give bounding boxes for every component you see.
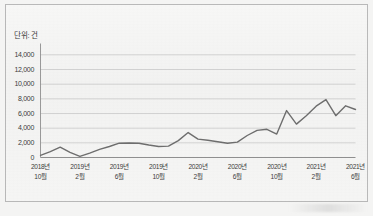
x-tick-month: 10월: [139, 172, 179, 182]
x-tick-month: 10월: [257, 172, 297, 182]
y-tick-label: 10,000: [4, 80, 34, 87]
y-tick-label: 2,000: [4, 139, 34, 146]
y-tick-label: 14,000: [4, 51, 34, 58]
x-tick-year: 2020년: [178, 162, 218, 172]
scan-artifact: [289, 204, 367, 212]
x-tick-label: 2020년2월: [178, 162, 218, 182]
x-tick-year: 2020년: [217, 162, 257, 172]
x-tick-month: 10월: [21, 172, 61, 182]
x-tick-label: 2021년6월: [336, 162, 373, 182]
line-chart-plot: [0, 0, 373, 216]
x-tick-year: 2018년: [21, 162, 61, 172]
y-tick-label: 0: [4, 154, 34, 161]
x-tick-month: 6월: [336, 172, 373, 182]
y-tick-label: 4,000: [4, 124, 34, 131]
x-tick-label: 2019년6월: [99, 162, 139, 182]
x-tick-year: 2019년: [139, 162, 179, 172]
x-tick-month: 2월: [296, 172, 336, 182]
x-tick-month: 2월: [60, 172, 100, 182]
x-tick-label: 2020년6월: [217, 162, 257, 182]
x-tick-year: 2021년: [336, 162, 373, 172]
gridlines: [41, 55, 356, 158]
chart-figure: 단위: 건 02,0004,0006,0008,00010,00012,0001…: [0, 0, 373, 216]
x-tick-year: 2019년: [60, 162, 100, 172]
x-tick-label: 2018년10월: [21, 162, 61, 182]
x-tick-month: 6월: [99, 172, 139, 182]
x-tick-label: 2019년2월: [60, 162, 100, 182]
x-tick-label: 2019년10월: [139, 162, 179, 182]
x-tick-month: 6월: [217, 172, 257, 182]
x-tick-label: 2020년10월: [257, 162, 297, 182]
x-tick-label: 2021년2월: [296, 162, 336, 182]
x-tick-year: 2021년: [296, 162, 336, 172]
x-tick-year: 2019년: [99, 162, 139, 172]
y-tick-label: 12,000: [4, 66, 34, 73]
y-tick-label: 6,000: [4, 110, 34, 117]
x-tick-month: 2월: [178, 172, 218, 182]
x-tick-year: 2020년: [257, 162, 297, 172]
y-tick-label: 8,000: [4, 95, 34, 102]
